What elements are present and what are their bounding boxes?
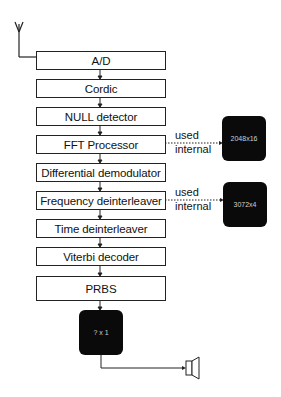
memory-freq-3072x4: 3072x4 bbox=[223, 182, 267, 227]
fft-memory-note-used: used bbox=[175, 130, 199, 141]
block-fft-processor: FFT Processor bbox=[36, 135, 166, 154]
memory-fft-2048x16: 2048x16 bbox=[222, 116, 266, 161]
flow-arrows bbox=[98, 70, 102, 310]
memory-output-buffer: ? x 1 bbox=[79, 310, 123, 355]
block-time-deinterleaver: Time deinterleaver bbox=[36, 219, 166, 238]
block-frequency-deinterleaver: Frequency deinterleaver bbox=[36, 191, 166, 210]
antenna-icon bbox=[15, 22, 36, 57]
block-differential-demodulator: Differential demodulator bbox=[36, 163, 166, 182]
block-prbs: PRBS bbox=[36, 276, 166, 301]
block-cordic: Cordic bbox=[36, 79, 166, 98]
speaker-icon bbox=[186, 357, 199, 379]
freq-memory-note-internal: internal bbox=[175, 201, 211, 212]
block-ad: A/D bbox=[36, 51, 166, 70]
freq-memory-note-used: used bbox=[175, 187, 199, 198]
block-viterbi-decoder: Viterbi decoder bbox=[36, 247, 166, 266]
fft-memory-note-internal: internal bbox=[175, 144, 211, 155]
block-null-detector: NULL detector bbox=[36, 107, 166, 126]
